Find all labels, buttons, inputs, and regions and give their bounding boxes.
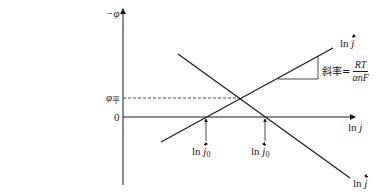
- exchange-label-forward: ln j0: [192, 146, 210, 159]
- origin-label: 0: [114, 112, 120, 123]
- equilibrium-label: φ平: [106, 92, 120, 105]
- x-axis-label: ln j: [348, 122, 362, 133]
- falling-line-label: ln j: [353, 178, 367, 189]
- phi-subscript: 平: [112, 96, 120, 105]
- slope-fraction: RT αnF: [350, 60, 370, 83]
- exchange-forward-subscript: 0: [206, 150, 210, 159]
- y-axis-label: −φ: [106, 8, 120, 19]
- rising-line-label: ln j: [340, 38, 354, 49]
- tafel-diagram: [0, 0, 378, 195]
- slope-numerator: RT: [353, 60, 369, 72]
- exchange-label-backward: ln j0: [251, 146, 269, 159]
- exchange-backward-subscript: 0: [265, 150, 269, 159]
- slope-annotation: 斜率= RT αnF: [322, 60, 371, 83]
- slope-denominator: αnF: [350, 72, 370, 83]
- rising-line: [161, 48, 333, 142]
- slope-prefix: 斜率=: [322, 67, 350, 77]
